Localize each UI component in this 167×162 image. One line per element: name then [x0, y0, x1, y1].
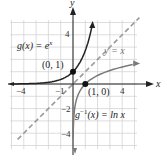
- function-graph: x y −4 −1 4 4 −2 −4 g(x) = ex y = x g−1(…: [0, 0, 167, 162]
- point-label-1-0: (1, 0): [88, 86, 110, 98]
- point-0-1: [70, 69, 76, 75]
- x-tick-neg4: −4: [16, 86, 26, 96]
- y-tick-neg4: −4: [61, 129, 71, 139]
- ln-bottom-arrow-icon: [73, 148, 77, 154]
- x-axis-arrow-icon: [146, 81, 154, 87]
- point-label-0-1: (0, 1): [42, 59, 64, 71]
- ln-curve-arrow-icon: [133, 60, 140, 66]
- y-tick-neg2: −2: [61, 104, 71, 114]
- x-tick-4: 4: [120, 86, 125, 96]
- exp-left-arrow-icon: [8, 82, 14, 86]
- exp-curve-arrow-icon: [89, 21, 95, 28]
- y-tick-4: 4: [65, 29, 70, 39]
- x-tick-neg1: −1: [55, 86, 65, 96]
- exp-function-label: g(x) = ex: [17, 39, 53, 52]
- y-axis-arrow-icon: [70, 7, 76, 15]
- y-axis-label: y: [69, 0, 75, 8]
- x-axis-label: x: [155, 78, 161, 89]
- identity-label: y = x: [103, 45, 125, 56]
- ln-function-label: g−1(x) = ln x: [75, 108, 126, 121]
